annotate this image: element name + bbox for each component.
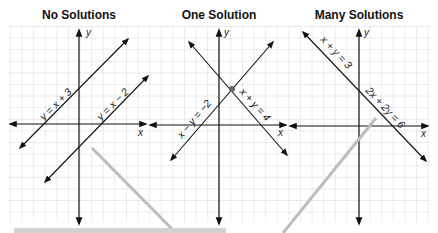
bottom-bar: [14, 228, 226, 233]
panel-title: One Solution: [182, 8, 257, 22]
y-axis-label: y: [363, 27, 370, 38]
y-axis-label: y: [85, 27, 92, 38]
systems-of-equations-figure: No Solutions y x y = x + 3 y = x − 2 One…: [0, 0, 438, 233]
panel-title: No Solutions: [42, 8, 116, 22]
panel-title: Many Solutions: [315, 8, 404, 22]
x-axis-label: x: [277, 127, 284, 138]
x-axis-label: x: [137, 127, 144, 138]
intersection-point: [229, 86, 235, 92]
y-axis-label: y: [223, 27, 230, 38]
x-axis-label: x: [420, 128, 427, 139]
